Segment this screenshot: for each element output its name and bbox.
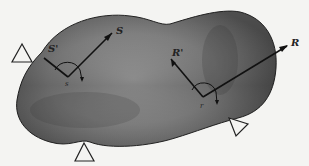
label-s: s xyxy=(65,80,69,88)
support-bottom-triangle xyxy=(75,143,94,161)
label-R-prime: R' xyxy=(171,47,183,58)
label-S-prime: S' xyxy=(48,43,58,54)
support-left-triangle xyxy=(12,44,32,62)
rigid-body-diagram: S' S s R' R r xyxy=(0,0,309,166)
label-R: R xyxy=(290,37,299,48)
support-right-triangle xyxy=(229,118,248,136)
label-S: S xyxy=(116,25,123,36)
